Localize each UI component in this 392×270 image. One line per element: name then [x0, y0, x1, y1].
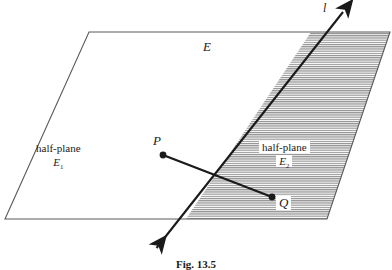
left-half-plane-symbol-letter: E — [53, 156, 60, 168]
point-p-dot — [160, 152, 167, 159]
left-half-plane-name: half-plane — [36, 142, 81, 154]
shaded-half-plane-region — [186, 32, 390, 219]
plane-label: E — [203, 40, 211, 54]
figure-container: E l P Q half-plane E1 half-plane E2 Fig.… — [0, 0, 392, 270]
figure-caption: Fig. 13.5 — [0, 258, 392, 270]
point-q-label: Q — [276, 196, 291, 210]
right-half-plane-symbol-letter: E — [279, 155, 286, 167]
left-half-plane-symbol: E1 — [36, 156, 81, 170]
left-half-plane-label: half-plane E1 — [36, 142, 81, 170]
left-half-plane-subscript: 1 — [60, 163, 63, 170]
point-p-label: P — [153, 134, 161, 148]
right-half-plane-label: half-plane E2 — [259, 141, 310, 169]
geometry-diagram — [0, 0, 392, 270]
right-half-plane-symbol: E2 — [259, 155, 310, 169]
right-half-plane-name: half-plane — [259, 141, 310, 153]
line-label: l — [323, 2, 326, 15]
right-half-plane-subscript: 2 — [286, 162, 289, 169]
point-q-dot — [269, 194, 276, 201]
